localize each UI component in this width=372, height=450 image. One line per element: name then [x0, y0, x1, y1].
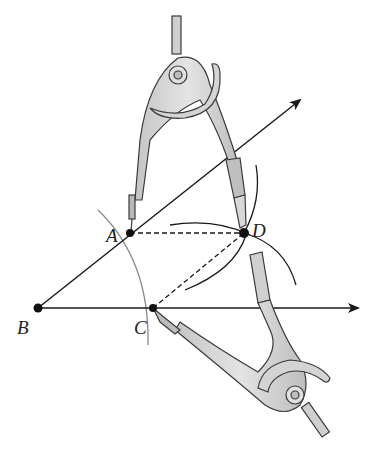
- compass-top: [129, 16, 246, 232]
- point-A: [126, 229, 134, 237]
- label-B: B: [17, 318, 29, 337]
- point-D: [239, 228, 249, 238]
- compass-bottom: [153, 252, 330, 437]
- geometry-diagram: A B C D: [0, 0, 372, 450]
- label-A: A: [106, 226, 118, 245]
- label-D: D: [252, 221, 266, 240]
- segment-CD: [153, 233, 244, 308]
- point-C: [149, 304, 157, 312]
- points: [34, 228, 250, 313]
- point-B: [34, 304, 43, 313]
- label-C: C: [134, 318, 147, 337]
